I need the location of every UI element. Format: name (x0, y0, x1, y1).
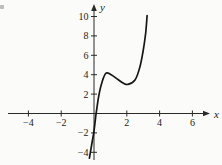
y-tick-label: −4 (78, 147, 89, 158)
y-tick-label: 6 (84, 50, 89, 61)
y-axis-label: y (99, 1, 105, 13)
y-axis-arrowhead (91, 4, 97, 11)
axes-layer (8, 4, 210, 160)
graph-figure: −4−2246108642−2−4 x y (0, 0, 222, 165)
y-tick-label: 2 (84, 89, 89, 100)
y-tick-label: 10 (79, 11, 89, 22)
curve-path (89, 16, 147, 159)
x-tick-label: −2 (56, 117, 67, 128)
curve-layer (89, 16, 147, 159)
plot-canvas: −4−2246108642−2−4 x y (0, 0, 222, 165)
x-tick-label: 6 (190, 117, 195, 128)
y-tick-label: 4 (84, 69, 89, 80)
y-tick-label: 8 (84, 30, 89, 41)
x-tick-label: 2 (124, 117, 129, 128)
x-axis-arrowhead (203, 111, 210, 117)
y-tick-label: −2 (78, 127, 89, 138)
x-axis-label: x (213, 108, 219, 120)
x-tick-label: 4 (157, 117, 162, 128)
ticks-layer: −4−2246108642−2−4 (23, 11, 195, 158)
x-tick-label: −4 (23, 117, 34, 128)
